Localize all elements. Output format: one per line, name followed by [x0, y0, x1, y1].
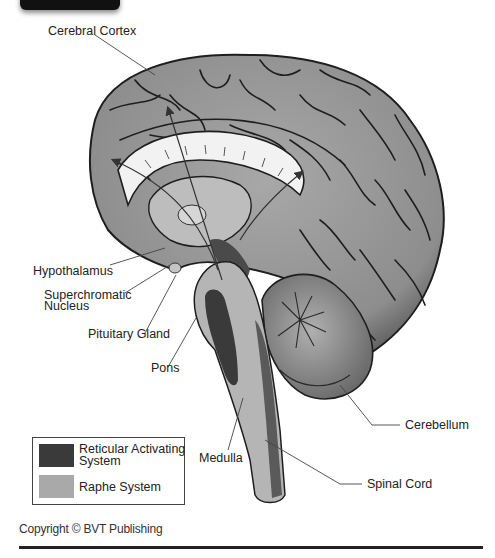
- label-superchromatic-nucleus: Superchromatic Nucleus: [44, 290, 132, 312]
- label-pons: Pons: [151, 362, 180, 375]
- legend-box: Reticular Activating System Raphe System: [32, 437, 185, 505]
- label-pituitary-gland: Pituitary Gland: [88, 328, 170, 341]
- footer-rule: [19, 546, 483, 549]
- label-medulla: Medulla: [199, 452, 243, 465]
- copyright-text: Copyright © BVT Publishing: [19, 522, 163, 536]
- legend-swatch-raphe: [39, 475, 74, 498]
- legend-swatch-reticular: [39, 444, 74, 467]
- label-hypothalamus: Hypothalamus: [33, 265, 113, 278]
- pituitary-gland-shape: [169, 263, 181, 273]
- label-cerebral-cortex: Cerebral Cortex: [48, 25, 136, 38]
- label-cerebellum: Cerebellum: [405, 419, 469, 432]
- label-spinal-cord: Spinal Cord: [367, 478, 432, 491]
- legend-label-reticular: Reticular Activating System: [79, 443, 185, 467]
- legend-label-raphe: Raphe System: [79, 481, 161, 493]
